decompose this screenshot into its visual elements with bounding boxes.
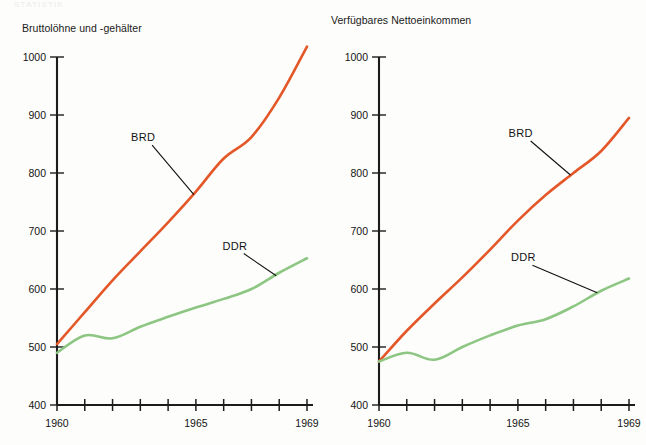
leader-line-ddr bbox=[532, 265, 597, 293]
y-tick-label: 700 bbox=[350, 225, 368, 237]
leader-line-brd bbox=[531, 141, 571, 175]
chart-panel-bruttoloehne: Bruttolöhne und -gehälter 40050060070080… bbox=[0, 0, 323, 445]
chart-panel-nettoeinkommen: Verfügbares Nettoeinkommen 4005006007008… bbox=[320, 0, 643, 445]
chart-page: STATISTIK Bruttolöhne und -gehälter 4005… bbox=[0, 0, 646, 445]
y-tick-label: 500 bbox=[350, 341, 368, 353]
y-tick-label: 800 bbox=[28, 167, 46, 179]
y-tick-label: 600 bbox=[350, 283, 368, 295]
x-tick-label: 1965 bbox=[506, 417, 530, 429]
leader-line-ddr bbox=[244, 254, 276, 276]
series-annotation-brd: BRD bbox=[131, 131, 155, 143]
y-tick-label: 800 bbox=[350, 167, 368, 179]
x-tick-label: 1965 bbox=[184, 417, 208, 429]
x-tick-label: 1960 bbox=[367, 417, 391, 429]
y-tick-label: 1000 bbox=[345, 51, 369, 63]
y-tick-label: 700 bbox=[28, 225, 46, 237]
chart-plot-left: 4005006007008009001000196019651969BRDDDR bbox=[0, 0, 323, 445]
series-annotation-brd: BRD bbox=[509, 127, 533, 139]
chart-plot-right: 4005006007008009001000196019651969BRDDDR bbox=[320, 0, 646, 445]
y-tick-label: 400 bbox=[28, 399, 46, 411]
y-tick-label: 1000 bbox=[23, 51, 47, 63]
series-annotation-ddr: DDR bbox=[222, 240, 247, 252]
y-tick-label: 600 bbox=[28, 283, 46, 295]
y-tick-label: 900 bbox=[350, 109, 368, 121]
x-tick-label: 1969 bbox=[295, 417, 319, 429]
series-line-ddr bbox=[57, 258, 307, 353]
series-line-brd bbox=[379, 118, 629, 362]
y-tick-label: 500 bbox=[28, 341, 46, 353]
series-annotation-ddr: DDR bbox=[511, 251, 536, 263]
y-tick-label: 900 bbox=[28, 109, 46, 121]
x-tick-label: 1969 bbox=[617, 417, 641, 429]
series-line-brd bbox=[57, 47, 307, 345]
y-tick-label: 400 bbox=[350, 399, 368, 411]
x-tick-label: 1960 bbox=[45, 417, 69, 429]
leader-line-brd bbox=[152, 145, 194, 194]
